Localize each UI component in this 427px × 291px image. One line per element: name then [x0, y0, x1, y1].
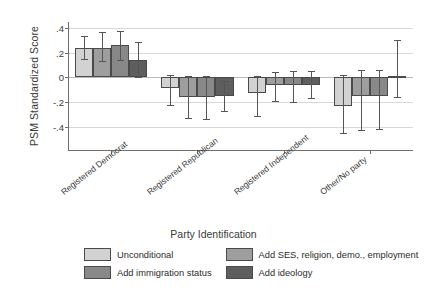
error-bar-cap-lower [308, 98, 315, 99]
chart-figure: PSM Standardized Score .4.20-.2-.4Regist… [0, 0, 427, 291]
bar-group [68, 22, 154, 139]
error-bar [311, 71, 312, 98]
y-axis-tick-label: .4 [56, 23, 64, 34]
error-bar [293, 71, 294, 102]
error-bar-cap-upper [167, 75, 174, 76]
error-bar-cap-upper [81, 36, 88, 37]
error-bar-cap-lower [117, 60, 124, 61]
legend-swatch [84, 266, 111, 279]
x-axis-category-label: Other/No party [318, 154, 369, 197]
y-axis-tick-label: .2 [56, 47, 64, 58]
error-bar-cap-lower [135, 77, 142, 78]
error-bar-cap-upper [376, 70, 383, 71]
legend-label: Add SES, religion, demo., employment [259, 250, 419, 260]
error-bar-cap-lower [272, 101, 279, 102]
error-bar [379, 70, 380, 129]
plot-area: .4.20-.2-.4Registered DemocratRegistered… [68, 22, 413, 139]
legend-item: Add ideology [226, 266, 419, 279]
error-bar-cap-upper [99, 32, 106, 33]
chart-legend: UnconditionalAdd SES, religion, demo., e… [84, 248, 384, 279]
error-bar [102, 32, 103, 62]
error-bar-cap-upper [117, 31, 124, 32]
error-bar-cap-upper [203, 76, 210, 77]
legend-label: Add immigration status [117, 268, 212, 278]
legend-swatch [226, 248, 253, 261]
x-axis-tick-mark [370, 150, 371, 154]
x-axis-category-label: Registered Democrat [59, 139, 129, 197]
error-bar [84, 36, 85, 59]
error-bar-cap-upper [272, 72, 279, 73]
error-bar [224, 81, 225, 111]
error-bar-cap-lower [221, 111, 228, 112]
error-bar [361, 70, 362, 130]
error-bar [188, 76, 189, 118]
error-bar-cap-upper [358, 70, 365, 71]
error-bar-cap-lower [81, 59, 88, 60]
error-bar-cap-upper [221, 81, 228, 82]
bar-group [327, 22, 413, 139]
error-bar [206, 76, 207, 119]
x-axis-title: Party Identification [0, 228, 427, 240]
bar-group [241, 22, 327, 139]
error-bar-cap-upper [135, 42, 142, 43]
bar-group [154, 22, 240, 139]
legend-label: Unconditional [117, 250, 173, 260]
y-axis-tick-label: 0 [59, 72, 64, 83]
error-bar-cap-upper [185, 76, 192, 77]
error-bar [138, 42, 139, 78]
error-bar-cap-lower [340, 133, 347, 134]
error-bar [397, 40, 398, 97]
error-bar-cap-lower [185, 118, 192, 119]
error-bar [343, 75, 344, 133]
error-bar-cap-upper [394, 40, 401, 41]
error-bar-cap-lower [290, 102, 297, 103]
y-axis-tick-label: -.2 [53, 97, 64, 108]
legend-item: Add immigration status [84, 266, 212, 279]
legend-item: Unconditional [84, 248, 212, 261]
error-bar-cap-upper [254, 76, 261, 77]
error-bar-cap-upper [290, 71, 297, 72]
error-bar-cap-lower [203, 119, 210, 120]
x-axis-category-label: Registered Independent [232, 133, 310, 197]
error-bar-cap-upper [340, 75, 347, 76]
x-axis-category-label: Registered Republican [145, 135, 220, 196]
error-bar-cap-lower [376, 129, 383, 130]
legend-swatch [84, 248, 111, 261]
error-bar [170, 75, 171, 105]
error-bar-cap-lower [99, 61, 106, 62]
error-bar-cap-upper [308, 71, 315, 72]
error-bar [275, 72, 276, 100]
error-bar-cap-lower [394, 97, 401, 98]
legend-item: Add SES, religion, demo., employment [226, 248, 419, 261]
y-axis-tick-label: -.4 [53, 121, 64, 132]
error-bar [120, 31, 121, 61]
error-bar-cap-lower [358, 130, 365, 131]
y-axis-title: PSM Standardized Score [28, 6, 40, 166]
error-bar-cap-lower [167, 105, 174, 106]
legend-label: Add ideology [259, 268, 313, 278]
legend-swatch [226, 266, 253, 279]
error-bar [257, 76, 258, 115]
error-bar-cap-lower [254, 116, 261, 117]
